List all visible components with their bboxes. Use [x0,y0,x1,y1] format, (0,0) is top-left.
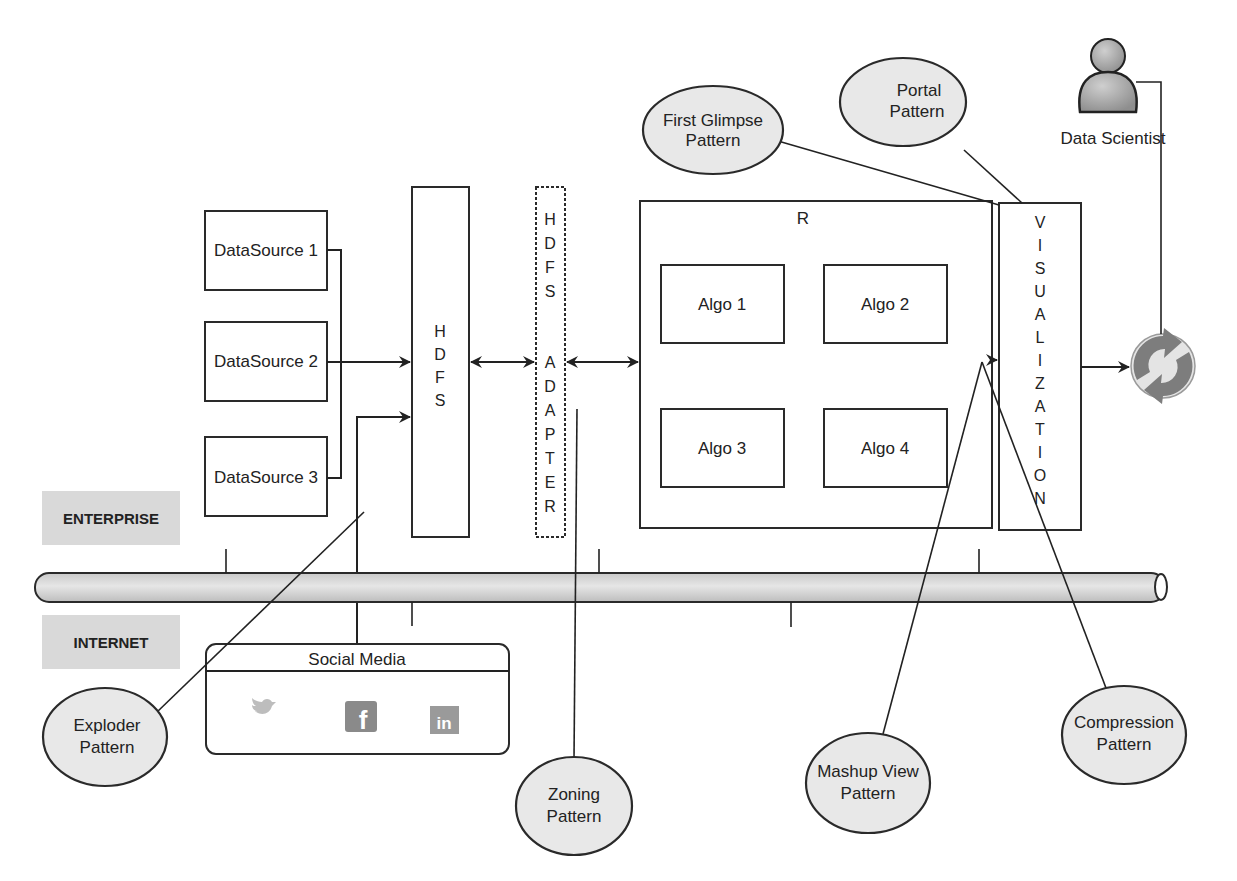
mashup-view-pattern-callout: Mashup View Pattern [806,733,930,833]
compression-pattern-callout: Compression Pattern [1062,686,1186,784]
svg-text:Pattern: Pattern [841,784,896,803]
datasource-1-box: DataSource 1 [205,211,327,290]
svg-text:Exploder: Exploder [73,716,140,735]
architecture-diagram: ENTERPRISE INTERNET DataSource 1 DataSou… [0,0,1237,881]
svg-text:Algo 3: Algo 3 [698,439,746,458]
svg-text:f: f [359,705,368,735]
algo-4-box: Algo 4 [824,409,947,487]
svg-text:A: A [1035,398,1046,415]
svg-text:Pattern: Pattern [547,807,602,826]
svg-text:I: I [1038,237,1042,254]
svg-text:L: L [1036,329,1045,346]
svg-text:D: D [544,235,556,252]
svg-text:R: R [544,498,556,515]
svg-text:I: I [1038,352,1042,369]
svg-text:A: A [1035,306,1046,323]
data-scientist-link [1136,82,1161,334]
svg-text:A: A [545,402,556,419]
svg-text:in: in [436,714,451,733]
facebook-icon: f [345,701,377,735]
internet-zone-label: INTERNET [42,615,180,669]
svg-text:DataSource 1: DataSource 1 [214,241,318,260]
svg-text:P: P [545,426,556,443]
svg-text:Algo 2: Algo 2 [861,295,909,314]
svg-text:Zoning: Zoning [548,785,600,804]
svg-text:Pattern: Pattern [890,102,945,121]
svg-text:Mashup View: Mashup View [817,762,919,781]
r-engine-box: R Algo 1 Algo 2 Algo 3 Algo 4 [640,201,992,528]
svg-text:DataSource 3: DataSource 3 [214,468,318,487]
svg-text:R: R [797,209,809,228]
svg-text:Algo 1: Algo 1 [698,295,746,314]
svg-text:S: S [435,392,446,409]
svg-text:INTERNET: INTERNET [74,634,149,651]
svg-text:F: F [435,369,445,386]
exploder-pattern-callout: Exploder Pattern [43,688,167,786]
svg-text:S: S [1035,260,1046,277]
svg-text:Pattern: Pattern [1097,735,1152,754]
data-scientist-avatar-icon [1079,39,1136,112]
zoning-pattern-callout: Zoning Pattern [516,757,632,855]
svg-text:First Glimpse: First Glimpse [663,111,763,130]
svg-text:V: V [1035,214,1046,231]
data-scientist-label: Data Scientist [1061,129,1166,148]
hdfs-adapter-box: H D F S A D A P T E R [536,187,565,537]
algo-1-box: Algo 1 [661,265,784,343]
svg-text:A: A [545,354,556,371]
visualization-box: V I S U A L I Z A T I O N [999,203,1081,530]
svg-text:D: D [434,346,446,363]
network-pipe [35,549,1167,627]
datasource-2-box: DataSource 2 [205,322,327,401]
linkedin-icon: in [430,706,459,734]
svg-text:T: T [1035,421,1045,438]
portal-pattern-callout: Portal Pattern [840,58,966,146]
svg-text:Pattern: Pattern [686,131,741,150]
svg-text:DataSource 2: DataSource 2 [214,352,318,371]
svg-text:S: S [545,283,556,300]
svg-text:F: F [545,259,555,276]
algo-3-box: Algo 3 [661,409,784,487]
svg-text:Pattern: Pattern [80,738,135,757]
hdfs-box: H D F S [412,187,469,537]
svg-text:H: H [544,211,556,228]
algo-2-box: Algo 2 [824,265,947,343]
first-glimpse-pattern-callout: First Glimpse Pattern [643,86,783,174]
svg-text:ENTERPRISE: ENTERPRISE [63,510,159,527]
svg-text:Z: Z [1035,375,1045,392]
svg-text:Portal: Portal [897,81,941,100]
social-media-box: Social Media f in [206,644,509,754]
svg-text:Compression: Compression [1074,713,1174,732]
enterprise-zone-label: ENTERPRISE [42,491,180,545]
datasource-3-box: DataSource 3 [205,437,327,516]
svg-text:Social Media: Social Media [308,650,406,669]
svg-text:U: U [1034,283,1046,300]
svg-text:T: T [545,450,555,467]
svg-text:I: I [1038,444,1042,461]
refresh-cycle-icon [1131,328,1195,404]
svg-text:Algo 4: Algo 4 [861,439,909,458]
svg-text:E: E [545,474,556,491]
svg-text:H: H [434,323,446,340]
svg-text:D: D [544,378,556,395]
svg-text:O: O [1034,467,1046,484]
